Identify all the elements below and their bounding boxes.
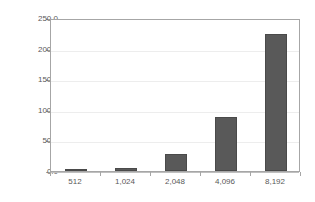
x-tick-label-8192: 8,192 (250, 178, 300, 186)
bar-1024[interactable] (115, 168, 137, 171)
bar-slot (251, 20, 301, 171)
x-tick-mark (50, 172, 51, 176)
bar-chart-figure: 0.050.0100.0150.0200.0250.0 5121,0242,04… (0, 0, 315, 202)
plot-area (50, 19, 300, 172)
bar-slot (151, 20, 201, 171)
bar-slot (201, 20, 251, 171)
bar-slot (101, 20, 151, 171)
bars-layer (51, 20, 299, 171)
x-tick-label-2048: 2,048 (150, 178, 200, 186)
bar-512[interactable] (65, 169, 87, 171)
gridline-0.0 (51, 172, 299, 173)
bar-slot (51, 20, 101, 171)
x-tick-mark (200, 172, 201, 176)
x-tick-mark (300, 172, 301, 176)
x-tick-mark (150, 172, 151, 176)
bar-4096[interactable] (215, 117, 237, 171)
x-tick-label-4096: 4,096 (200, 178, 250, 186)
x-tick-label-1024: 1,024 (100, 178, 150, 186)
bar-2048[interactable] (165, 154, 187, 171)
x-tick-mark (250, 172, 251, 176)
x-tick-mark (100, 172, 101, 176)
x-tick-label-512: 512 (50, 178, 100, 186)
bar-8192[interactable] (265, 34, 287, 171)
